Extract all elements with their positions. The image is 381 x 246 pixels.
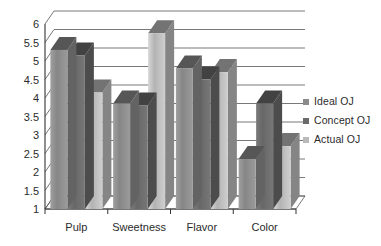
bar-color-ideal-oj bbox=[239, 146, 265, 209]
legend-swatch-concept-oj bbox=[303, 118, 309, 124]
legend-label-concept-oj: Concept OJ bbox=[314, 115, 370, 126]
y-tick-label: 2.5 bbox=[24, 148, 39, 160]
legend-item-actual-oj: Actual OJ bbox=[303, 131, 381, 148]
x-category-label: Color bbox=[251, 221, 278, 233]
y-tick-label: 3 bbox=[33, 129, 39, 141]
legend-label-ideal-oj: Ideal OJ bbox=[314, 96, 354, 107]
legend-swatch-actual-oj bbox=[303, 137, 309, 143]
y-tick-label: 6 bbox=[33, 18, 39, 30]
y-tick-label: 5.5 bbox=[24, 37, 39, 49]
chart-legend: Ideal OJ Concept OJ Actual OJ bbox=[303, 93, 381, 150]
legend-swatch-ideal-oj bbox=[303, 99, 309, 105]
chart-container: 11.522.533.544.555.56 PulpSweetnessFlavo… bbox=[0, 0, 381, 246]
bar-pulp-ideal-oj bbox=[50, 37, 76, 209]
y-tick-label: 4.5 bbox=[24, 74, 39, 86]
y-tick-label: 2 bbox=[33, 166, 39, 178]
legend-item-concept-oj: Concept OJ bbox=[303, 112, 381, 129]
y-tick-label: 1 bbox=[33, 203, 39, 215]
x-category-labels: PulpSweetnessFlavorColor bbox=[45, 209, 296, 233]
bar-sweetness-ideal-oj bbox=[113, 91, 139, 209]
legend-item-ideal-oj: Ideal OJ bbox=[303, 93, 381, 110]
y-tick-label: 1.5 bbox=[24, 185, 39, 197]
y-tick-labels: 11.522.533.544.555.56 bbox=[24, 18, 39, 215]
x-category-label: Sweetness bbox=[112, 221, 166, 233]
y-tick-label: 4 bbox=[33, 92, 39, 104]
x-category-label: Pulp bbox=[65, 221, 87, 233]
x-category-label: Flavor bbox=[187, 221, 218, 233]
y-tick-label: 3.5 bbox=[24, 111, 39, 123]
legend-label-actual-oj: Actual OJ bbox=[314, 134, 360, 145]
bar-flavor-ideal-oj bbox=[176, 55, 202, 209]
y-tick-label: 5 bbox=[33, 55, 39, 67]
